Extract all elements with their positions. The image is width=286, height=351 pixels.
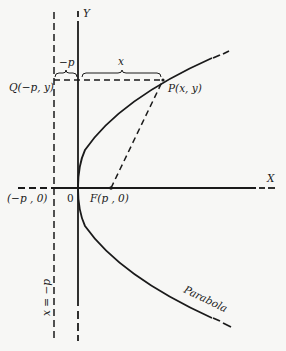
parabola-label: Parabola — [181, 283, 229, 315]
y-axis-label: Y — [83, 7, 91, 19]
fp-dashed-line — [111, 80, 163, 188]
q-point-label: Q(−p, y) — [9, 81, 54, 94]
focus-label: F(p , 0) — [89, 192, 129, 204]
focus-point — [109, 186, 113, 190]
x-brace — [82, 70, 161, 77]
minus-p-label: −p — [59, 56, 75, 68]
origin-label: 0 — [67, 192, 74, 204]
p-point-label: P(x, y) — [167, 82, 202, 94]
directrix-equation-label: x = −p — [40, 279, 52, 316]
parabola-diagram: Y X 0 F(p , 0) (−p , 0) Q(−p, y) P(x, y)… — [0, 0, 286, 351]
directrix-point-label: (−p , 0) — [7, 192, 47, 204]
x-axis-label: X — [266, 172, 275, 184]
point-p — [161, 78, 164, 81]
minus-p-brace — [55, 70, 77, 77]
x-brace-label: x — [118, 55, 124, 67]
parabola-dashed-ends — [213, 51, 231, 327]
